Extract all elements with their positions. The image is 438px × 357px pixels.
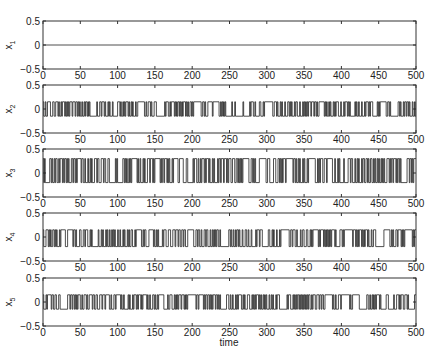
x-tick-label: 450 — [370, 262, 387, 273]
x-tick-label: 350 — [296, 134, 313, 145]
y-tick-label: −0.5 — [20, 64, 40, 75]
x-tick-label: 200 — [184, 327, 201, 338]
x-tick-label: 400 — [333, 134, 350, 145]
x-tick-label: 500 — [408, 327, 425, 338]
x-tick-label: 350 — [296, 70, 313, 81]
subplot-x4: 050100150200250300350400450500−0.500.5x4 — [3, 208, 425, 274]
y-tick-label: 0.5 — [26, 144, 40, 155]
x-tick-label: 100 — [109, 70, 126, 81]
x-tick-label: 100 — [109, 134, 126, 145]
x-tick-label: 50 — [75, 198, 87, 209]
x-tick-label: 250 — [221, 70, 238, 81]
x-tick-label: 300 — [258, 70, 275, 81]
y-tick-label: 0.5 — [26, 80, 40, 91]
y-tick-label: 0.5 — [26, 16, 40, 27]
x-tick-label: 350 — [296, 262, 313, 273]
subplot-x3: 050100150200250300350400450500−0.500.5x3 — [3, 144, 425, 210]
x-tick-label: 400 — [333, 262, 350, 273]
x-tick-label: 250 — [221, 262, 238, 273]
x-tick-label: 100 — [109, 262, 126, 273]
figure: 050100150200250300350400450500−0.500.5x1… — [0, 0, 438, 357]
y-axis-label: x1 — [3, 40, 16, 49]
signal-trace-x5 — [43, 295, 416, 309]
y-axis-label: x5 — [3, 297, 16, 306]
y-tick-label: 0.5 — [26, 273, 40, 284]
x-tick-label: 0 — [40, 70, 46, 81]
signal-trace-x2 — [43, 102, 416, 116]
x-tick-label: 0 — [40, 198, 46, 209]
x-tick-label: 500 — [408, 198, 425, 209]
x-tick-label: 50 — [75, 327, 87, 338]
axes-frame — [43, 85, 416, 133]
subplots-container: 050100150200250300350400450500−0.500.5x1… — [3, 16, 425, 339]
y-tick-label: 0 — [34, 232, 40, 243]
x-tick-label: 300 — [258, 198, 275, 209]
x-tick-label: 450 — [370, 134, 387, 145]
subplot-x2: 050100150200250300350400450500−0.500.5x2 — [3, 80, 425, 146]
y-tick-label: −0.5 — [20, 128, 40, 139]
y-tick-label: 0 — [34, 168, 40, 179]
x-tick-label: 0 — [40, 262, 46, 273]
x-tick-label: 300 — [258, 262, 275, 273]
y-axis-label: x2 — [3, 104, 16, 113]
subplot-x5: 050100150200250300350400450500−0.500.5x5 — [3, 273, 425, 339]
axes-frame — [43, 278, 416, 326]
x-tick-label: 200 — [184, 262, 201, 273]
y-axis-label: x4 — [3, 232, 16, 241]
x-tick-label: 200 — [184, 134, 201, 145]
x-tick-label: 50 — [75, 70, 87, 81]
x-tick-label: 150 — [147, 327, 164, 338]
x-tick-label: 150 — [147, 70, 164, 81]
x-tick-label: 450 — [370, 327, 387, 338]
x-tick-label: 500 — [408, 262, 425, 273]
x-tick-label: 100 — [109, 327, 126, 338]
x-tick-label: 200 — [184, 70, 201, 81]
x-tick-label: 300 — [258, 327, 275, 338]
x-tick-label: 500 — [408, 70, 425, 81]
x-tick-label: 400 — [333, 198, 350, 209]
signal-trace-x3 — [43, 159, 416, 183]
x-tick-label: 450 — [370, 70, 387, 81]
x-axis-label: time — [220, 337, 239, 348]
x-tick-label: 350 — [296, 327, 313, 338]
y-tick-label: −0.5 — [20, 321, 40, 332]
x-tick-label: 150 — [147, 262, 164, 273]
signal-trace-x4 — [43, 230, 416, 247]
x-tick-label: 350 — [296, 198, 313, 209]
y-tick-label: −0.5 — [20, 192, 40, 203]
x-tick-label: 0 — [40, 134, 46, 145]
y-tick-label: 0.5 — [26, 208, 40, 219]
x-tick-label: 150 — [147, 198, 164, 209]
x-tick-label: 400 — [333, 70, 350, 81]
y-axis-label: x3 — [3, 168, 16, 177]
y-tick-label: 0 — [34, 104, 40, 115]
x-tick-label: 450 — [370, 198, 387, 209]
x-tick-label: 250 — [221, 134, 238, 145]
y-tick-label: 0 — [34, 297, 40, 308]
x-tick-label: 250 — [221, 198, 238, 209]
y-tick-label: −0.5 — [20, 256, 40, 267]
x-tick-label: 400 — [333, 327, 350, 338]
x-tick-label: 500 — [408, 134, 425, 145]
x-tick-label: 50 — [75, 262, 87, 273]
x-tick-label: 100 — [109, 198, 126, 209]
y-tick-label: 0 — [34, 40, 40, 51]
subplot-x1: 050100150200250300350400450500−0.500.5x1 — [3, 16, 425, 82]
x-tick-label: 150 — [147, 134, 164, 145]
x-tick-label: 200 — [184, 198, 201, 209]
x-tick-label: 50 — [75, 134, 87, 145]
x-tick-label: 0 — [40, 327, 46, 338]
x-tick-label: 300 — [258, 134, 275, 145]
